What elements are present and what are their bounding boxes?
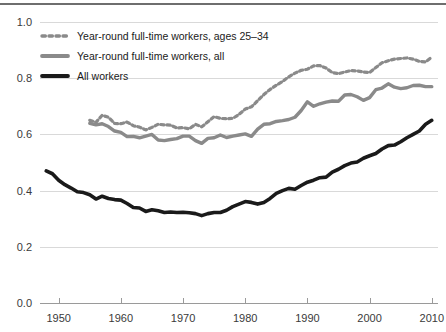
x-tick-label-1980: 1980: [233, 312, 257, 324]
chart-container: 0.00.20.40.60.81.0 195019601970198019902…: [0, 0, 446, 332]
y-tick-label-0.8: 0.8: [17, 72, 32, 84]
x-tick-label-2010: 2010: [420, 312, 444, 324]
x-tick-label-1990: 1990: [295, 312, 319, 324]
y-tick-label-0.4: 0.4: [17, 185, 32, 197]
legend-label-2: All workers: [77, 70, 128, 82]
gridlines-group: [40, 23, 438, 304]
x-tick-label-1960: 1960: [109, 312, 133, 324]
y-tick-label-0.6: 0.6: [17, 128, 32, 140]
x-tick-label-1950: 1950: [46, 312, 70, 324]
x-axis-tick-labels: 1950196019701980199020002010: [46, 312, 444, 324]
y-tick-label-1.0: 1.0: [17, 16, 32, 28]
axes-group: [40, 298, 438, 304]
legend-label-0: Year-round full-time workers, ages 25–34: [77, 30, 269, 42]
top-divider-rule: [0, 3, 446, 5]
series-line-0: [90, 57, 432, 130]
y-tick-label-0.2: 0.2: [17, 241, 32, 253]
x-tick-label-2000: 2000: [357, 312, 381, 324]
y-axis-tick-labels: 0.00.20.40.60.81.0: [17, 16, 32, 309]
legend-label-1: Year-round full-time workers, all: [77, 50, 224, 62]
chart-legend: Year-round full-time workers, ages 25–34…: [42, 30, 269, 82]
line-chart: 0.00.20.40.60.81.0 195019601970198019902…: [0, 0, 446, 332]
x-tick-label-1970: 1970: [171, 312, 195, 324]
y-tick-label-0.0: 0.0: [17, 297, 32, 309]
